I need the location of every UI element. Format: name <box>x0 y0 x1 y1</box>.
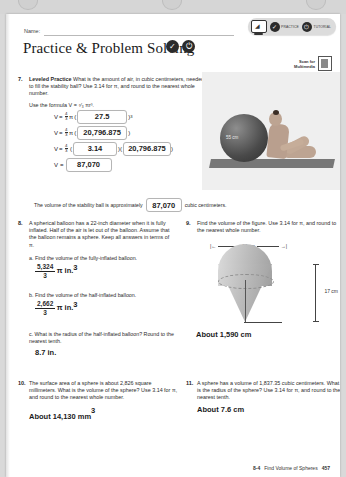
problem-8a-label: a. <box>29 255 33 261</box>
problem-11: 11. A sphere has a volume of 1,837.35 cu… <box>186 380 340 414</box>
equals-symbol: = <box>59 130 63 136</box>
problem-7-answer-1[interactable]: 27.5 <box>77 110 127 124</box>
scan-for-multimedia[interactable]: Scan for Multimedia <box>294 56 332 71</box>
problem-11-number: 11. <box>186 380 193 386</box>
problem-7-exponent-1: 3 <box>130 114 132 119</box>
problem-8b-label: b. <box>29 292 33 298</box>
problem-7-number: 7. <box>18 76 23 82</box>
multimedia-toolbar[interactable]: ◢ ✓ PRACTICE ⏻ TUTORIAL <box>248 18 336 35</box>
page-footer: 8-4 Find Volume of Spheres 457 <box>253 465 330 471</box>
binder-hole <box>306 0 326 10</box>
problem-10-answer-row[interactable]: About 14,130 mm3 <box>29 405 180 423</box>
figure-center-axis <box>245 280 246 322</box>
binder-hole <box>162 0 182 10</box>
equals-symbol: = <box>59 146 63 152</box>
name-write-line[interactable] <box>44 28 234 36</box>
problem-8c-label: c. <box>29 331 33 337</box>
problem-8a-text: Find the volume of the fully-inflated ba… <box>35 255 137 261</box>
problem-7-line-4: V = 87,070 <box>54 157 208 173</box>
problem-7-line-2: V = 4 3 π ( 20,796.875 ) <box>54 125 208 141</box>
person-figure <box>264 110 326 162</box>
problem-11-answer[interactable]: About 7.6 cm <box>197 405 340 414</box>
problem-8a-answer-exponent: 3 <box>73 263 77 272</box>
problem-7-line-1: V = 4 3 π ( 27.5 )3 <box>54 109 208 125</box>
problem-9: 9. Find the volume of the figure. Use 3.… <box>186 220 340 234</box>
problem-7-line-3: V = 4 3 ( 3.14 )( 20,796.875 ) <box>54 141 208 157</box>
tutorial-label: TUTORIAL <box>313 25 331 29</box>
footer-page-number: 457 <box>322 465 330 471</box>
check-circle-icon[interactable]: ✓ <box>166 40 179 53</box>
laptop-wifi-icon[interactable]: ◢ <box>251 20 267 33</box>
problem-10-answer: About 14,130 mm <box>29 412 91 421</box>
problem-10-number: 10. <box>18 380 26 386</box>
four-thirds-fraction: 4 3 <box>65 112 68 122</box>
footer-lesson-title: Find Volume of Spheres <box>264 465 317 471</box>
ball-diameter-label: 55 cm <box>226 135 238 140</box>
problem-7: 7. Leveled Practice What is the amount o… <box>18 76 208 173</box>
person-torso <box>266 123 289 159</box>
problem-8a: a. Find the volume of the fully-inflated… <box>29 255 174 280</box>
four-thirds-fraction: 4 3 <box>65 144 68 154</box>
practice-label: PRACTICE <box>281 25 299 29</box>
figure-bottom-extension <box>244 322 282 323</box>
conclusion-pre: The volume of the stability ball is appr… <box>34 202 143 208</box>
problem-8c-answer[interactable]: 8.7 in. <box>35 349 174 356</box>
four-thirds-fraction: 4 3 <box>65 128 68 138</box>
problem-9-answer[interactable]: About 1,590 cm <box>196 330 251 339</box>
problem-8b-answer-fraction[interactable]: 2,662 3 <box>35 300 55 317</box>
problem-7-answer-3b[interactable]: 20,796.875 <box>123 142 171 156</box>
problem-10: 10. The surface area of a sphere is abou… <box>18 380 180 423</box>
problem-9-text: Find the volume of the figure. Use 3.14 … <box>197 220 340 234</box>
title-icon-group: ✓ ⏻ <box>166 40 195 53</box>
problem-10-text: The surface area of a sphere is about 2,… <box>29 380 180 402</box>
problem-7-conclusion-answer[interactable]: 87,070 <box>146 198 182 212</box>
stability-ball-photo: 55 cm <box>202 72 340 190</box>
problem-7-conclusion: The volume of the stability ball is appr… <box>34 198 227 212</box>
problem-8: 8. A spherical balloon has a 22-inch dia… <box>18 220 174 356</box>
problem-8a-answer-unit: π in. <box>57 266 74 275</box>
practice-icon: ✓ <box>270 22 280 32</box>
dim-right-cap: →| <box>281 244 287 249</box>
problem-8c-text: What is the radius of the half-inflated … <box>29 331 174 344</box>
problem-7-text: Leveled Practice What is the amount of a… <box>29 76 208 98</box>
dim-left-cap: |← <box>210 244 216 249</box>
pi-symbol: π <box>69 114 73 120</box>
tutorial-button[interactable]: ⏻ TUTORIAL <box>302 22 331 32</box>
v-symbol: V <box>54 162 58 168</box>
hemisphere-base-ellipse <box>218 274 274 289</box>
qr-code-icon[interactable] <box>318 56 332 71</box>
problem-7-answer-3[interactable]: 3.14 <box>73 142 117 156</box>
figure-height-dim-line <box>315 264 316 322</box>
problem-8c: c. What is the radius of the half-inflat… <box>29 331 174 356</box>
tutorial-icon: ⏻ <box>302 22 312 32</box>
problem-8b-answer-exponent: 3 <box>73 300 77 309</box>
problem-11-text: A sphere has a volume of 1,837.35 cubic … <box>197 380 340 402</box>
problem-8-number: 8. <box>18 220 23 226</box>
problem-8a-answer-fraction[interactable]: 5,324 3 <box>35 263 55 280</box>
problem-10-answer-exponent: 3 <box>91 405 95 414</box>
problem-7-lead: Leveled Practice <box>29 76 72 82</box>
problem-8b-answer-unit: π in. <box>57 303 74 312</box>
figure-height-label: 17 cm <box>324 288 338 294</box>
dim-line <box>257 246 279 247</box>
pi-symbol: π <box>69 130 73 136</box>
problem-8-text: A spherical balloon has a 22-inch diamet… <box>29 220 174 249</box>
problem-8b-text: Find the volume of the half-inflated bal… <box>35 292 136 298</box>
problem-8b: b. Find the volume of the half-inflated … <box>29 292 174 317</box>
name-field-row[interactable]: Name: <box>24 28 234 36</box>
v-symbol: V <box>54 146 58 152</box>
practice-button[interactable]: ✓ PRACTICE <box>270 22 299 32</box>
person-hair-bun <box>273 110 279 115</box>
scan-for-text: Scan for Multimedia <box>294 59 315 69</box>
equals-symbol: = <box>59 114 63 120</box>
footer-lesson-number: 8-4 <box>253 465 260 471</box>
v-symbol: V <box>54 114 58 120</box>
binder-hole <box>18 0 38 10</box>
name-label: Name: <box>24 28 40 34</box>
problem-7-answer-4[interactable]: 87,070 <box>66 158 112 172</box>
power-circle-icon[interactable]: ⏻ <box>182 40 195 53</box>
equals-symbol: = <box>60 162 64 168</box>
scanner-top-strip <box>0 0 346 14</box>
problem-7-answer-2[interactable]: 20,796.875 <box>77 126 127 140</box>
worksheet-page: Name: Practice & Problem Solving ✓ ⏻ ◢ ✓… <box>6 14 340 477</box>
